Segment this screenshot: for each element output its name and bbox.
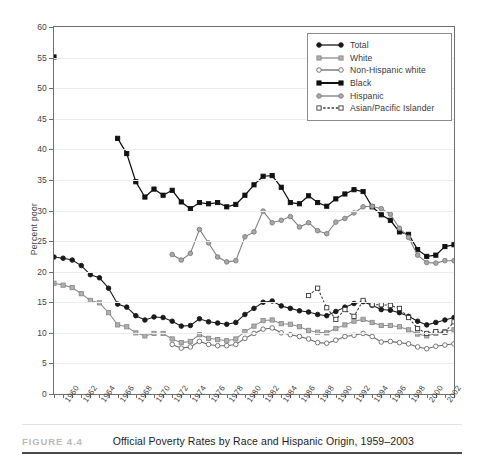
data-point-filled-circle — [288, 306, 293, 311]
x-axis-tick — [54, 394, 55, 398]
data-point-open-circle — [179, 346, 184, 351]
data-point-filled-square — [352, 319, 356, 323]
legend-item-black[interactable]: Black — [315, 77, 445, 90]
data-point-open-square — [334, 317, 338, 321]
data-point-filled-square — [452, 328, 454, 332]
data-point-filled-square — [125, 325, 129, 329]
data-point-filled-square — [334, 197, 338, 201]
data-point-filled-square — [106, 311, 110, 315]
data-point-filled-circle — [317, 43, 322, 48]
data-point-filled-square — [179, 341, 183, 345]
data-point-filled-square — [288, 200, 292, 204]
data-point-open-square — [325, 306, 329, 310]
legend-item-non-hispanic-white[interactable]: Non-Hispanic white — [315, 64, 445, 77]
data-point-filled-square — [125, 152, 129, 156]
data-point-filled-circle — [315, 228, 320, 233]
data-point-open-circle — [406, 342, 411, 347]
data-point-open-circle — [243, 336, 248, 341]
legend-item-white[interactable]: White — [315, 52, 445, 65]
data-point-filled-circle — [361, 205, 366, 210]
legend-symbol-icon — [315, 77, 345, 89]
data-point-filled-circle — [334, 309, 339, 314]
data-point-filled-square — [297, 325, 301, 329]
caption-top-rule — [22, 424, 462, 425]
data-point-open-circle — [206, 342, 211, 347]
data-point-filled-circle — [415, 319, 420, 324]
data-point-filled-circle — [424, 260, 429, 265]
data-point-open-square — [339, 106, 343, 110]
data-point-filled-square — [261, 174, 265, 178]
data-point-open-square — [316, 286, 320, 290]
data-point-filled-circle — [179, 324, 184, 329]
data-point-filled-square — [416, 248, 420, 252]
data-point-filled-square — [170, 337, 174, 341]
data-point-open-circle — [415, 345, 420, 350]
data-point-open-circle — [379, 340, 384, 345]
data-point-filled-circle — [215, 321, 220, 326]
data-point-open-circle — [261, 327, 266, 332]
data-point-open-square — [388, 303, 392, 307]
data-point-filled-circle — [334, 220, 339, 225]
data-point-filled-square — [206, 202, 210, 206]
data-point-filled-circle — [179, 258, 184, 263]
gridline — [54, 272, 454, 273]
data-point-filled-square — [452, 243, 454, 247]
data-point-filled-square — [79, 292, 83, 296]
legend-item-total[interactable]: Total — [315, 39, 445, 52]
data-point-filled-circle — [188, 323, 193, 328]
data-point-open-circle — [339, 68, 344, 73]
data-point-filled-square — [317, 56, 321, 60]
data-point-filled-circle — [124, 305, 129, 310]
data-point-open-square — [452, 320, 454, 324]
data-point-open-circle — [315, 340, 320, 345]
data-point-open-circle — [370, 334, 375, 339]
data-point-filled-square — [116, 136, 120, 140]
series-non-hispanic-white — [170, 326, 454, 351]
data-point-open-circle — [443, 343, 448, 348]
y-axis-tick — [49, 149, 54, 150]
data-point-filled-circle — [288, 214, 293, 219]
series-hispanic — [170, 204, 454, 265]
data-point-filled-square — [234, 202, 238, 206]
data-point-open-circle — [297, 334, 302, 339]
legend-label: White — [350, 53, 372, 63]
legend-item-asian-pacific-islander[interactable]: Asian/Pacific Islander — [315, 102, 445, 115]
y-axis-tick-label: 40 — [37, 144, 47, 154]
data-point-filled-square — [279, 322, 283, 326]
legend-symbol-icon — [315, 39, 345, 51]
data-point-filled-circle — [252, 306, 257, 311]
data-point-open-circle — [334, 338, 339, 343]
y-axis-tick-label: 50 — [37, 83, 47, 93]
data-point-filled-circle — [434, 261, 439, 266]
data-point-filled-circle — [224, 260, 229, 265]
data-point-filled-square — [325, 204, 329, 208]
data-point-filled-circle — [415, 253, 420, 258]
data-point-open-circle — [306, 337, 311, 342]
data-point-filled-square — [152, 187, 156, 191]
series-line — [172, 206, 454, 263]
gridline — [54, 149, 454, 150]
y-axis-tick-label: 15 — [37, 297, 47, 307]
data-point-open-square — [416, 326, 420, 330]
data-point-open-circle — [388, 339, 393, 344]
data-point-filled-square — [443, 244, 447, 248]
legend-item-hispanic[interactable]: Hispanic — [315, 89, 445, 102]
y-axis-tick — [49, 88, 54, 89]
data-point-filled-circle — [315, 312, 320, 317]
data-point-filled-square — [61, 283, 65, 287]
y-axis-tick — [49, 180, 54, 181]
data-point-filled-square — [352, 188, 356, 192]
legend-symbol-icon — [315, 102, 345, 114]
gridline — [54, 180, 454, 181]
data-point-filled-square — [388, 218, 392, 222]
data-point-filled-square — [316, 200, 320, 204]
data-point-open-square — [306, 293, 310, 297]
data-point-filled-circle — [397, 310, 402, 315]
data-point-filled-circle — [379, 307, 384, 312]
data-point-filled-circle — [443, 258, 448, 263]
y-axis-tick — [49, 333, 54, 334]
data-point-filled-circle — [279, 218, 284, 223]
chart-legend: TotalWhiteNon-Hispanic whiteBlackHispani… — [307, 33, 452, 121]
y-axis-tick — [49, 58, 54, 59]
data-point-filled-circle — [161, 315, 166, 320]
